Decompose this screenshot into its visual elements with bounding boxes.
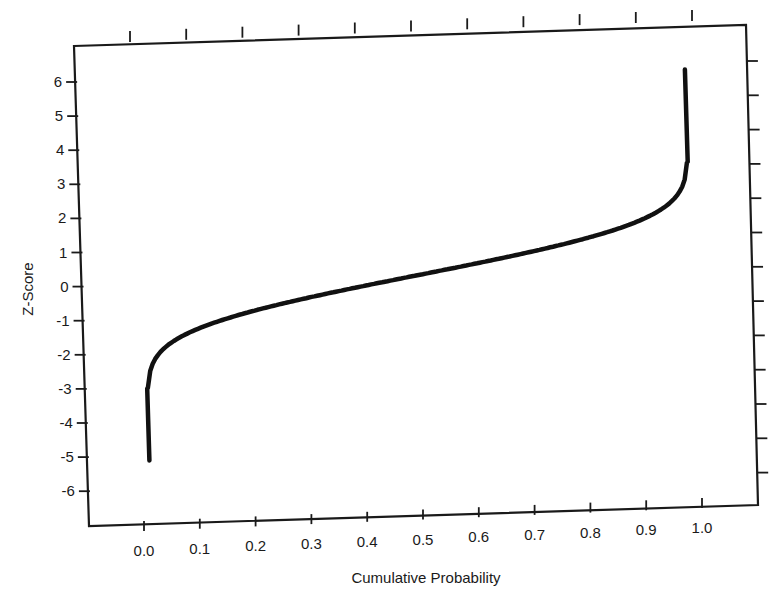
y-tick-label: 2 [58,209,66,226]
x-tick-label: 0.9 [636,521,657,538]
right-axis-ticks [747,61,768,473]
y-tick-label: 5 [55,107,63,124]
y-tick-label: -5 [61,448,74,465]
y-tick-label: 0 [60,278,68,295]
z-score-chart: 0.00.10.20.30.40.50.60.70.80.91.0 654321… [0,0,776,603]
y-tick-label: 6 [54,73,62,90]
x-axis-title: Cumulative Probability [351,569,501,586]
x-tick-label: 0.4 [357,533,378,550]
x-tick-label: 0.1 [189,540,210,557]
x-tick-label: 1.0 [692,519,713,536]
y-tick-label: -1 [56,312,69,329]
y-tick-label: -4 [59,414,72,431]
x-tick-label: 0.6 [468,528,489,545]
quantile-curve [147,70,688,461]
y-tick-label: -2 [57,346,70,363]
x-tick-label: 0.0 [134,542,155,559]
x-tick-label: 0.2 [245,537,266,554]
x-tick-label: 0.5 [413,531,434,548]
x-tick-label: 0.3 [301,535,322,552]
y-tick-label: -3 [58,380,71,397]
y-tick-label: 4 [56,141,64,158]
y-tick-label: 3 [57,175,65,192]
x-axis: 0.00.10.20.30.40.50.60.70.80.91.0 [134,498,713,559]
x-tick-label: 0.7 [524,526,545,543]
y-tick-label: -6 [62,482,75,499]
x-tick-label: 0.8 [580,524,601,541]
y-axis: 6543210-1-2-3-4-5-6 [54,73,90,499]
y-tick-label: 1 [59,244,67,261]
y-axis-title: Z-Score [19,262,36,315]
top-axis-ticks [130,10,692,42]
